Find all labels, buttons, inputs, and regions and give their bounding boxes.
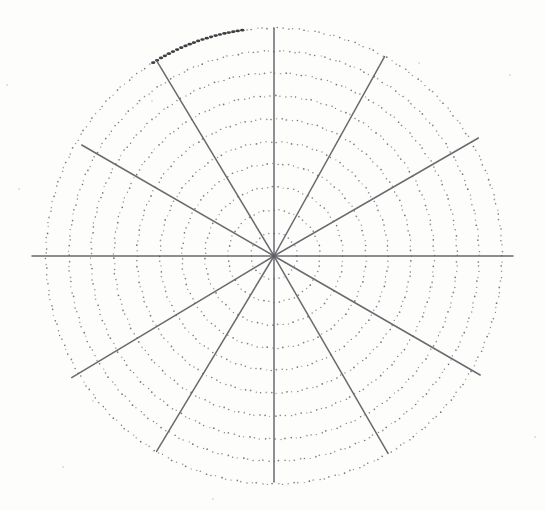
polar-spoke-240 xyxy=(157,256,274,451)
polar-spoke-60 xyxy=(274,57,385,256)
polar-spoke-150 xyxy=(82,145,274,256)
polar-spoke-330 xyxy=(274,256,480,375)
emphasized-outer-arc xyxy=(151,29,244,64)
polar-spoke-120 xyxy=(157,61,274,256)
polar-spokes-group xyxy=(32,28,513,482)
polar-spoke-300 xyxy=(274,256,388,453)
polar-grid-figure xyxy=(0,0,546,510)
polar-spoke-30 xyxy=(274,138,478,256)
polar-grid-canvas xyxy=(0,0,546,510)
